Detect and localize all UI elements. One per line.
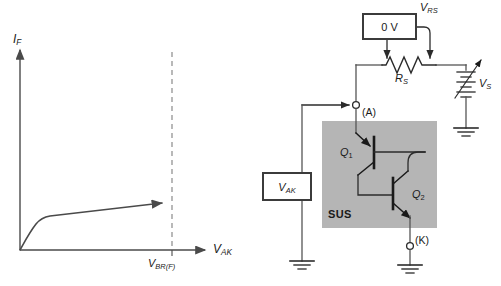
q1-emitter-lead xyxy=(356,133,370,146)
voltmeter-vak-label: VAK xyxy=(278,181,295,193)
resistor-rs-label: RS xyxy=(395,73,408,84)
transistor-q2-label: Q2 xyxy=(412,189,425,200)
q2-emitter-lead xyxy=(393,203,410,218)
anode-terminal-label: (A) xyxy=(362,107,376,118)
ground-vak xyxy=(290,261,314,269)
voltmeter-vrs-label: VRS xyxy=(420,2,438,13)
voltmeter-vrs[interactable]: 0 V xyxy=(362,13,417,40)
ground-source xyxy=(454,128,478,136)
transistor-q1-label: Q1 xyxy=(340,147,353,158)
cathode-terminal-label: (K) xyxy=(415,235,429,246)
q1-collector-lead xyxy=(358,162,374,175)
cathode-terminal-dot xyxy=(407,243,414,250)
voltmeter-vak[interactable]: VAK xyxy=(262,172,312,201)
anode-terminal-dot xyxy=(353,102,360,109)
q1-collector-wire xyxy=(358,175,393,195)
figure-root: IF VAK VBR(F) SUS xyxy=(0,0,501,286)
resistor-rs-symbol xyxy=(382,57,436,73)
q2-collector-lead xyxy=(393,171,408,184)
ground-cathode xyxy=(398,265,422,273)
source-vs-label: VS xyxy=(479,78,491,89)
voltmeter-vrs-reading: 0 V xyxy=(381,21,398,33)
source-vs-symbol xyxy=(457,72,475,97)
q2-collector-wire xyxy=(408,152,425,171)
